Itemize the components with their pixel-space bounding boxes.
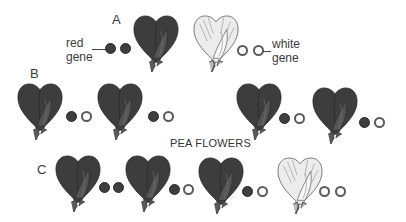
row-label-c: C [37,163,46,176]
white-gene-pointer-line [263,51,271,52]
flower-red [54,152,102,212]
red-gene-label: red gene [66,36,93,64]
white-gene-label-line2: gene [272,51,299,65]
gene-white [237,45,248,56]
flower-red [124,152,172,212]
gene-red [113,182,124,193]
gene-red [120,43,131,54]
flower-red [235,80,283,140]
flower-white [276,154,324,214]
white-gene-label-line1: white [272,37,300,51]
flower-red [132,12,180,72]
diagram-title: PEA FLOWERS [170,137,251,149]
flower-red [311,84,359,144]
gene-white [294,113,305,124]
gene-white [335,186,346,197]
red-gene-label-line2: gene [66,50,93,64]
gene-white [183,184,194,195]
white-gene-label: white gene [272,37,300,65]
flower-red [197,154,245,214]
gene-white [257,186,268,197]
gene-white [319,186,330,197]
gene-red [279,113,290,124]
gene-red [99,182,110,193]
flower-red [16,80,64,140]
gene-red [105,43,116,54]
gene-red [359,117,370,128]
gene-red [148,111,159,122]
gene-red [242,186,253,197]
flower-red [96,80,144,140]
gene-white [163,111,174,122]
row-label-a: A [112,13,121,26]
red-gene-pointer-line [92,49,106,50]
red-gene-label-line1: red [66,36,83,50]
gene-red [169,184,180,195]
flower-white [192,12,240,72]
row-label-b: B [30,67,39,80]
gene-red [66,111,77,122]
gene-white [81,111,92,122]
gene-white [374,117,385,128]
